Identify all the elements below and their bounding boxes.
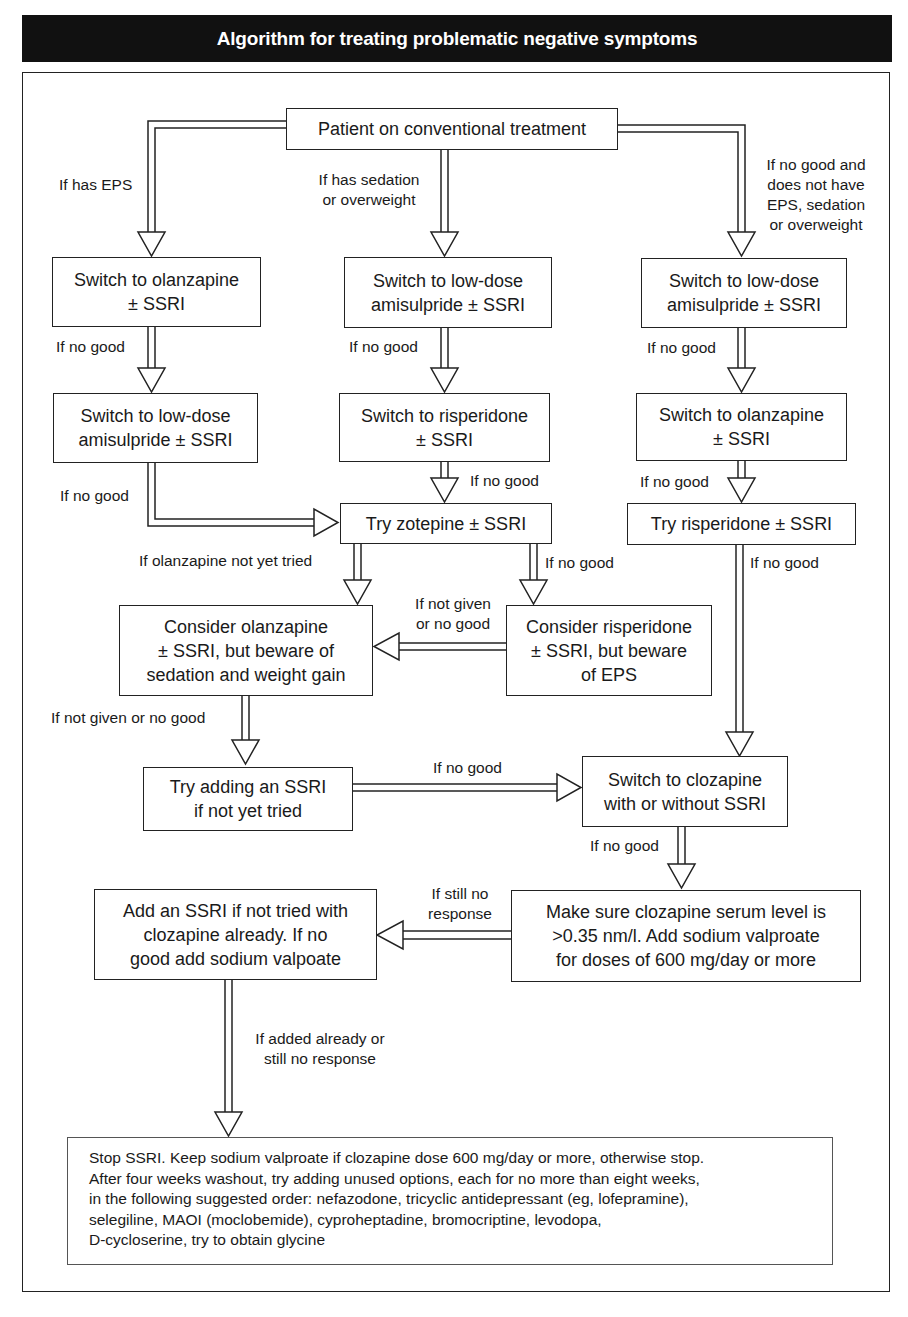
arrow-right1-to-right2 (728, 328, 755, 392)
arrow-zotepine-to-consider-risperidone (520, 543, 547, 604)
box-switch-risperidone-mid: Switch to risperidone ± SSRI (339, 393, 550, 462)
label-right-no-good-3: If no good (750, 553, 819, 573)
box-add-ssri-clozapine: Add an SSRI if not tried with clozapine … (94, 889, 377, 980)
arrow-start-to-middle (431, 150, 458, 256)
box-text-line: if not yet tried (194, 799, 302, 823)
box-start-text: Patient on conventional treatment (318, 117, 586, 141)
box-text-line: amisulpride ± SSRI (667, 293, 821, 317)
final-text-line: selegiline, MAOI (moclobemide), cyprohep… (89, 1210, 832, 1231)
box-text-line: Switch to olanzapine (659, 403, 824, 427)
label-mid-no-good-1: If no good (349, 337, 418, 357)
arrow-right3-to-clozapine (726, 545, 753, 756)
label-has-sedation: If has sedation or overweight (304, 170, 434, 210)
label-line: If not given (400, 594, 506, 614)
arrow-mid1-to-mid2 (431, 328, 458, 392)
label-ssri-no-good: If no good (433, 758, 502, 778)
arrow-left1-to-left2 (138, 326, 165, 392)
label-still-no-response: If still no response (410, 884, 510, 924)
box-text-line: ± SSRI (416, 428, 473, 452)
box-text-line: clozapine already. If no (144, 923, 328, 947)
label-line: EPS, sedation (753, 195, 879, 215)
box-text-line: Consider risperidone (526, 615, 692, 639)
label-zotepine-no-good: If no good (545, 553, 614, 573)
box-consider-olanzapine: Consider olanzapine ± SSRI, but beware o… (119, 605, 373, 696)
label-olanzapine-not-tried: If olanzapine not yet tried (139, 551, 312, 571)
box-text-line: Consider olanzapine (164, 615, 328, 639)
arrow-clozapine-to-serum (668, 826, 695, 888)
label-line: If no good and (753, 155, 879, 175)
box-switch-amisulpride-mid: Switch to low-dose amisulpride ± SSRI (344, 257, 552, 328)
label-right-no-good-2: If no good (640, 472, 709, 492)
final-text-line: After four weeks washout, try adding unu… (89, 1169, 832, 1190)
box-text-line: Switch to low-dose (373, 269, 523, 293)
arrow-olanzapine-to-add-ssri (232, 695, 259, 764)
box-text-line: Try adding an SSRI (170, 775, 326, 799)
label-line: or overweight (304, 190, 434, 210)
box-text-line: sedation and weight gain (146, 663, 345, 687)
box-text-line: amisulpride ± SSRI (371, 293, 525, 317)
box-text-line: Switch to low-dose (669, 269, 819, 293)
label-left-no-good-1: If no good (56, 337, 125, 357)
box-text-line: amisulpride ± SSRI (79, 428, 233, 452)
arrow-mid2-to-zotepine (431, 461, 458, 502)
label-line: response (410, 904, 510, 924)
label-line: does not have (753, 175, 879, 195)
box-consider-risperidone: Consider risperidone ± SSRI, but beware … (506, 605, 712, 696)
arrow-zotepine-to-consider-olanzapine (344, 543, 371, 604)
box-text-line: Switch to low-dose (80, 404, 230, 428)
label-clozapine-no-good: If no good (590, 836, 659, 856)
label-right-no-good-1: If no good (647, 338, 716, 358)
box-text-line: good add sodium valpoate (130, 947, 341, 971)
box-switch-amisulpride-left: Switch to low-dose amisulpride ± SSRI (53, 393, 258, 463)
box-text-line: for doses of 600 mg/day or more (556, 948, 816, 972)
box-try-risperidone: Try risperidone ± SSRI (627, 503, 856, 545)
label-not-given-or-no-good: If not given or no good (51, 708, 205, 728)
box-text-line: Make sure clozapine serum level is (546, 900, 826, 924)
box-text-line: of EPS (581, 663, 637, 687)
final-text-line: Stop SSRI. Keep sodium valproate if cloz… (89, 1148, 832, 1169)
box-text-line: Try zotepine ± SSRI (366, 512, 526, 536)
arrow-serum-to-add-ssri-clozapine (377, 921, 512, 949)
box-text-line: Add an SSRI if not tried with (123, 899, 348, 923)
box-try-adding-ssri: Try adding an SSRI if not yet tried (143, 767, 353, 831)
box-text-line: ± SSRI, but beware (531, 639, 687, 663)
label-has-eps: If has EPS (59, 175, 132, 195)
arrow-right2-to-right3 (728, 461, 755, 502)
box-text-line: Try risperidone ± SSRI (651, 512, 832, 536)
arrow-left2-to-zotepine (148, 462, 338, 536)
label-added-already: If added already or still no response (240, 1029, 400, 1069)
arrow-add-ssri-to-clozapine (352, 774, 581, 801)
label-line: If still no (410, 884, 510, 904)
label-line: or overweight (753, 215, 879, 235)
box-switch-amisulpride-right: Switch to low-dose amisulpride ± SSRI (641, 258, 847, 328)
box-try-zotepine: Try zotepine ± SSRI (340, 503, 552, 544)
label-no-good-no-eps: If no good and does not have EPS, sedati… (753, 155, 879, 235)
box-text-line: ± SSRI (128, 292, 185, 316)
box-final-instructions: Stop SSRI. Keep sodium valproate if cloz… (67, 1137, 833, 1265)
arrow-risperidone-to-olanzapine (374, 633, 507, 660)
final-text-line: in the following suggested order: nefazo… (89, 1189, 832, 1210)
label-line: If added already or (240, 1029, 400, 1049)
box-text-line: ± SSRI (713, 427, 770, 451)
label-line: still no response (240, 1049, 400, 1069)
box-serum-level: Make sure clozapine serum level is >0.35… (511, 890, 861, 982)
box-switch-clozapine: Switch to clozapine with or without SSRI (582, 756, 788, 827)
label-left-no-good-2: If no good (60, 486, 129, 506)
box-text-line: with or without SSRI (604, 792, 766, 816)
arrow-start-to-left (138, 121, 291, 256)
box-text-line: Switch to risperidone (361, 404, 528, 428)
label-not-given-no-good: If not given or no good (400, 594, 506, 634)
box-text-line: ± SSRI, but beware of (158, 639, 334, 663)
box-text-line: Switch to clozapine (608, 768, 762, 792)
label-line: or no good (400, 614, 506, 634)
box-text-line: Switch to olanzapine (74, 268, 239, 292)
label-line: If has sedation (304, 170, 434, 190)
arrow-start-to-right (618, 125, 755, 256)
box-switch-olanzapine-left: Switch to olanzapine ± SSRI (52, 257, 261, 327)
label-mid-no-good-2: If no good (470, 471, 539, 491)
box-start: Patient on conventional treatment (286, 108, 618, 150)
box-switch-olanzapine-right: Switch to olanzapine ± SSRI (636, 393, 847, 461)
arrow-to-final-box (215, 980, 242, 1136)
box-text-line: >0.35 nm/l. Add sodium valproate (552, 924, 820, 948)
final-text-line: D-cycloserine, try to obtain glycine (89, 1230, 832, 1251)
